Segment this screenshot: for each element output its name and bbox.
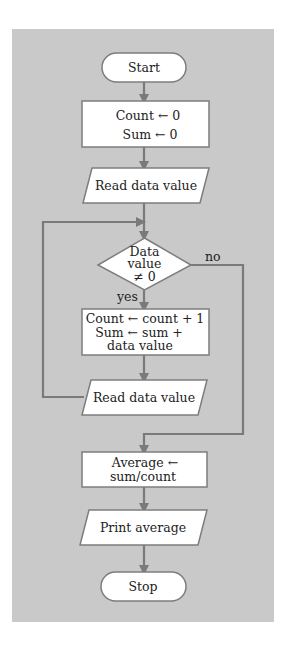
node-read-data-2[interactable]: Read data value <box>82 380 207 415</box>
edge-label-yes: yes <box>116 289 138 304</box>
node-start[interactable]: Start <box>102 53 186 82</box>
node-average[interactable]: Average ← sum/count <box>82 452 207 487</box>
node-stop[interactable]: Stop <box>101 572 186 601</box>
init-line-count: Count ← 0 <box>116 108 181 123</box>
update-line-count: Count ← count + 1 <box>86 311 205 326</box>
update-line-data-value: data value <box>107 338 173 353</box>
edge-label-no: no <box>205 249 221 264</box>
print-label: Print average <box>100 520 186 535</box>
decision-line-3: ≠ 0 <box>133 269 155 284</box>
stop-label: Stop <box>128 579 157 594</box>
average-line-2: sum/count <box>110 469 176 484</box>
node-update[interactable]: Count ← count + 1 Sum ← sum + data value <box>82 309 209 355</box>
init-line-sum: Sum ← 0 <box>123 127 178 142</box>
node-print-average[interactable]: Print average <box>80 510 207 545</box>
read2-label: Read data value <box>93 390 195 405</box>
node-read-data-1[interactable]: Read data value <box>83 168 209 203</box>
start-label: Start <box>128 60 160 75</box>
flowchart-canvas: Start Count ← 0 Sum ← 0 Read data value … <box>0 0 290 651</box>
read1-label: Read data value <box>95 178 197 193</box>
node-init[interactable]: Count ← 0 Sum ← 0 <box>82 101 209 147</box>
average-line-1: Average ← <box>111 455 178 470</box>
